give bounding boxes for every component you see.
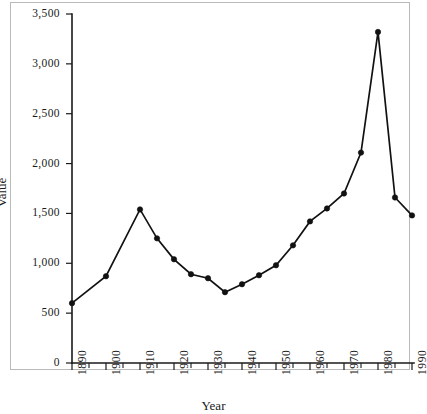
- x-axis-tick-label: 1970: [349, 350, 361, 375]
- x-axis-tick-label: 1940: [247, 350, 259, 375]
- data-point-marker: [307, 219, 312, 224]
- data-point-marker: [171, 257, 176, 262]
- data-point-marker: [154, 236, 159, 241]
- x-axis-tick-label: 1930: [213, 350, 225, 375]
- data-point-marker: [324, 206, 329, 211]
- data-point-marker: [103, 274, 108, 279]
- data-point-marker: [137, 207, 142, 212]
- chart-figure: Value Year 05001,0001,5002,0002,5003,000…: [0, 0, 427, 414]
- x-axis-tick-label: 1980: [383, 350, 395, 375]
- data-point-marker: [392, 195, 397, 200]
- data-point-marker: [273, 263, 278, 268]
- data-point-marker: [205, 276, 210, 281]
- data-point-marker: [375, 29, 380, 34]
- data-point-marker: [188, 272, 193, 277]
- x-axis-title: Year: [0, 399, 427, 412]
- y-axis-tick-label: 1,000: [4, 257, 60, 269]
- x-axis-tick-label: 1900: [111, 350, 123, 375]
- y-axis-tick-label: 1,500: [4, 207, 60, 219]
- data-point-marker: [358, 150, 363, 155]
- data-point-marker: [239, 282, 244, 287]
- y-axis-tick-label: 2,000: [4, 158, 60, 170]
- data-point-marker: [290, 243, 295, 248]
- y-axis-tick-label: 3,500: [4, 8, 60, 20]
- x-axis-tick-label: 1990: [417, 350, 427, 375]
- x-axis-tick-label: 1920: [179, 350, 191, 375]
- data-point-marker: [341, 191, 346, 196]
- x-axis-tick-label: 1910: [145, 350, 157, 375]
- series-line: [72, 32, 412, 303]
- data-point-marker: [256, 273, 261, 278]
- y-axis-tick-label: 0: [4, 357, 60, 369]
- x-axis-tick-label: 1890: [77, 350, 89, 375]
- data-point-marker: [69, 300, 74, 305]
- data-point-marker: [222, 290, 227, 295]
- data-point-marker: [409, 213, 414, 218]
- y-axis-tick-label: 2,500: [4, 108, 60, 120]
- x-axis-tick-label: 1960: [315, 350, 327, 375]
- y-axis-tick-label: 500: [4, 307, 60, 319]
- y-axis-title: Value: [0, 178, 8, 208]
- x-axis-tick-label: 1950: [281, 350, 293, 375]
- y-axis-tick-label: 3,000: [4, 58, 60, 70]
